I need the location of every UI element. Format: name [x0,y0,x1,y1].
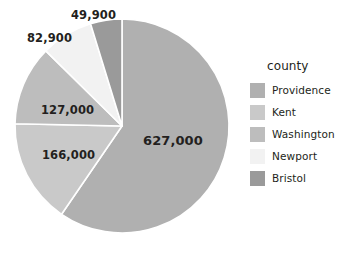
legend-swatch-icon [250,83,265,98]
slice-value-label-bristol: 49,900 [71,10,116,22]
legend-item-label: Newport [272,151,317,162]
slice-value-label-newport: 82,900 [27,33,72,45]
pie-chart-figure: 627,000166,000127,00082,90049,900 county… [0,0,347,255]
legend-item-bristol[interactable]: Bristol [250,167,347,189]
legend-swatch-icon [250,171,265,186]
legend-item-label: Kent [272,107,296,118]
legend-item-label: Washington [272,129,335,140]
legend-swatch-icon [250,149,265,164]
legend-item-providence[interactable]: Providence [250,79,347,101]
pie-slice-group [15,19,229,233]
legend-item-newport[interactable]: Newport [250,145,347,167]
slice-value-label-washington: 127,000 [41,105,94,117]
legend-swatch-icon [250,105,265,120]
legend-item-label: Bristol [272,173,306,184]
legend-items: ProvidenceKentWashingtonNewportBristol [250,79,347,189]
legend-item-washington[interactable]: Washington [250,123,347,145]
pie-plot-area: 627,000166,000127,00082,90049,900 [0,0,247,255]
legend-swatch-icon [250,127,265,142]
slice-value-label-kent: 166,000 [42,150,95,162]
legend-title: county [267,60,347,72]
legend-item-label: Providence [272,85,331,96]
legend-item-kent[interactable]: Kent [250,101,347,123]
legend: county ProvidenceKentWashingtonNewportBr… [250,60,347,189]
slice-value-label-providence: 627,000 [143,134,203,147]
